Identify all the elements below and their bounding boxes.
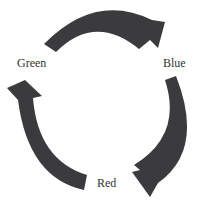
cycle-diagram: Green Blue Red [0, 0, 200, 205]
node-label-green: Green [17, 57, 46, 69]
arrow-red-to-green [7, 80, 87, 190]
node-label-red: Red [97, 177, 116, 189]
arrow-green-to-blue [44, 10, 165, 52]
cycle-arrows [0, 0, 200, 205]
arrow-blue-to-red [132, 76, 187, 197]
node-label-blue: Blue [163, 57, 186, 69]
